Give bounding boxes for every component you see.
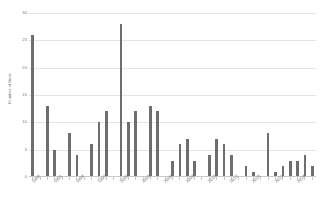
bar	[76, 155, 79, 177]
x-axis-label-slot	[147, 180, 154, 208]
bar-slot	[139, 13, 146, 177]
bar-slot	[58, 13, 65, 177]
x-axis-label-slot	[198, 180, 205, 208]
y-axis-tick-label: 0	[13, 175, 27, 179]
bar-slot	[272, 13, 279, 177]
x-axis-label-slot	[58, 180, 65, 208]
x-axis-label-slot	[279, 180, 286, 208]
x-axis-label-slot	[154, 180, 161, 208]
bar	[215, 139, 218, 177]
x-axis-label-slot	[88, 180, 95, 208]
bar-slot	[184, 13, 191, 177]
bar-slot	[66, 13, 73, 177]
bar-slot	[242, 13, 249, 177]
x-axis-label-slot	[257, 180, 264, 208]
plot-area	[29, 13, 316, 177]
bar	[105, 111, 108, 177]
x-axis-label-slot	[169, 180, 176, 208]
bar	[223, 144, 226, 177]
x-axis-label-slot: 2012	[206, 180, 213, 208]
bar-slot	[51, 13, 58, 177]
bar-slot	[44, 13, 51, 177]
y-axis-tick-label: 5	[13, 148, 27, 152]
x-axis-label-slot	[132, 180, 139, 208]
x-axis-label-slot: 1997	[95, 180, 102, 208]
bar-slot	[250, 13, 257, 177]
bar	[134, 111, 137, 177]
x-axis-label-slot	[44, 180, 51, 208]
x-axis-label-slot	[235, 180, 242, 208]
x-axis-label-slot: 2000	[117, 180, 124, 208]
x-axis-label-slot: 2018	[250, 180, 257, 208]
bar-slot	[29, 13, 36, 177]
bar-slot	[213, 13, 220, 177]
bar-slot	[206, 13, 213, 177]
x-axis-label-slot	[265, 180, 272, 208]
x-axis-label-slot	[191, 180, 198, 208]
x-axis-label-slot	[242, 180, 249, 208]
x-axis-label-slot: 2003	[139, 180, 146, 208]
bar	[68, 133, 71, 177]
x-axis-label-slot	[176, 180, 183, 208]
bar	[289, 161, 292, 177]
bar-slot	[88, 13, 95, 177]
y-axis-tick-labels: 302520151050	[13, 0, 28, 190]
x-axis-label-slot: 2009	[184, 180, 191, 208]
bar-slot	[117, 13, 124, 177]
bar-slot	[154, 13, 161, 177]
bar	[296, 161, 299, 177]
bar	[267, 133, 270, 177]
x-axis-label-slot	[213, 180, 220, 208]
bar-chart: Number of finds 302520151050 19881991199…	[0, 0, 322, 210]
x-axis-tick-labels: 1988199119941997200020032006200920122015…	[29, 180, 316, 208]
bar	[120, 24, 123, 177]
x-axis-label-slot	[287, 180, 294, 208]
bar-slot	[235, 13, 242, 177]
y-axis-tick-label: 25	[13, 38, 27, 42]
bar-slot	[132, 13, 139, 177]
bar-slot	[287, 13, 294, 177]
x-axis-label-slot	[125, 180, 132, 208]
bar-slot	[294, 13, 301, 177]
bar-slot	[198, 13, 205, 177]
bar	[98, 122, 101, 177]
y-axis-tick-label: 10	[13, 120, 27, 124]
bar-slot	[228, 13, 235, 177]
x-axis-label-slot	[66, 180, 73, 208]
x-axis-label-slot: 2006	[161, 180, 168, 208]
bar-slot	[36, 13, 43, 177]
x-axis-label-slot	[110, 180, 117, 208]
bar-slot	[191, 13, 198, 177]
bar	[208, 155, 211, 177]
y-axis-title-label: Number of finds	[7, 73, 12, 103]
x-axis-label-slot	[309, 180, 316, 208]
bar	[90, 144, 93, 177]
x-axis-label-slot: 1988	[29, 180, 36, 208]
x-axis-label-slot: 1991	[51, 180, 58, 208]
bar	[149, 106, 152, 177]
bar-slot	[81, 13, 88, 177]
bar	[53, 150, 56, 177]
y-axis-tick-label: 15	[13, 93, 27, 97]
bar-slot	[161, 13, 168, 177]
bar-slot	[147, 13, 154, 177]
x-axis-label-slot	[36, 180, 43, 208]
bar	[156, 111, 159, 177]
bar-slot	[73, 13, 80, 177]
bar-slot	[265, 13, 272, 177]
x-axis-label-slot	[103, 180, 110, 208]
bar	[31, 35, 34, 177]
bar-slot	[220, 13, 227, 177]
x-axis-label-slot	[301, 180, 308, 208]
bar-slot	[95, 13, 102, 177]
y-axis-tick-label: 20	[13, 66, 27, 70]
bar-slot	[103, 13, 110, 177]
x-axis-label-slot: 1994	[73, 180, 80, 208]
bar-slot	[125, 13, 132, 177]
y-axis-tick-label: 30	[13, 11, 27, 15]
x-axis-label-slot: 2021	[272, 180, 279, 208]
bar	[179, 144, 182, 177]
bar-series	[29, 13, 316, 177]
bar	[46, 106, 49, 177]
bar	[230, 155, 233, 177]
